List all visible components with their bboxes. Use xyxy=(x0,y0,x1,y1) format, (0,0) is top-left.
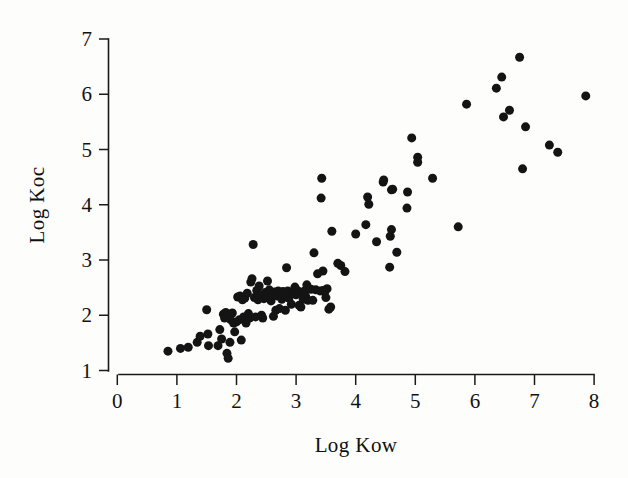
data-point xyxy=(326,302,335,311)
data-point xyxy=(392,248,401,257)
data-point xyxy=(237,336,246,345)
x-axis-ticks xyxy=(117,375,594,386)
y-tick-label-4: 4 xyxy=(82,193,93,217)
data-point xyxy=(225,338,234,347)
data-point xyxy=(321,293,330,302)
x-tick-label-3: 3 xyxy=(291,389,302,413)
x-tick-label-6: 6 xyxy=(470,389,481,413)
data-point xyxy=(402,204,411,213)
data-point xyxy=(248,274,257,283)
data-point xyxy=(553,148,562,157)
y-tick-label-5: 5 xyxy=(82,138,93,162)
data-point xyxy=(202,305,211,314)
y-tick-label-6: 6 xyxy=(82,82,93,106)
plot-canvas: 1234567 012345678 Log Koc Log Kow xyxy=(0,0,628,478)
y-tick-label-7: 7 xyxy=(82,27,93,51)
data-point xyxy=(287,300,296,309)
data-point xyxy=(351,230,360,239)
x-tick-label-1: 1 xyxy=(172,389,183,413)
data-point xyxy=(323,284,332,293)
y-axis-tick-labels: 1234567 xyxy=(82,27,93,383)
data-point xyxy=(217,335,226,344)
data-point xyxy=(263,277,272,286)
data-point xyxy=(518,164,527,173)
data-point xyxy=(407,133,416,142)
data-point xyxy=(454,222,463,231)
data-point xyxy=(505,106,514,115)
data-point xyxy=(521,122,530,131)
data-point xyxy=(361,220,370,229)
y-tick-label-1: 1 xyxy=(82,359,93,383)
data-point xyxy=(203,330,212,339)
x-tick-label-4: 4 xyxy=(350,389,361,413)
x-axis-title: Log Kow xyxy=(315,433,398,457)
data-point xyxy=(492,84,501,93)
data-point xyxy=(413,158,422,167)
data-point xyxy=(327,227,336,236)
data-point xyxy=(296,302,305,311)
y-axis-title: Log Koc xyxy=(25,167,49,244)
data-point xyxy=(204,341,213,350)
data-point xyxy=(224,354,233,363)
data-point xyxy=(403,188,412,197)
data-point xyxy=(497,73,506,82)
data-point xyxy=(282,263,291,272)
data-point xyxy=(545,141,554,150)
data-point xyxy=(388,185,397,194)
x-tick-label-8: 8 xyxy=(589,389,600,413)
x-tick-label-7: 7 xyxy=(529,389,540,413)
data-point xyxy=(581,91,590,100)
y-tick-label-3: 3 xyxy=(82,248,93,272)
x-tick-label-0: 0 xyxy=(112,389,123,413)
data-point xyxy=(309,248,318,257)
data-point xyxy=(372,237,381,246)
data-point xyxy=(230,327,239,336)
data-point xyxy=(308,296,317,305)
data-point xyxy=(428,174,437,183)
x-tick-label-2: 2 xyxy=(231,389,242,413)
axes xyxy=(109,39,595,375)
x-tick-label-5: 5 xyxy=(410,389,421,413)
data-point xyxy=(340,267,349,276)
data-point xyxy=(317,194,326,203)
data-point xyxy=(317,174,326,183)
data-point xyxy=(163,347,172,356)
scatter-plot-figure: 1234567 012345678 Log Koc Log Kow xyxy=(0,0,628,478)
data-point xyxy=(258,314,267,323)
data-point xyxy=(249,240,258,249)
data-point xyxy=(462,100,471,109)
data-points xyxy=(163,53,590,363)
data-point xyxy=(364,200,373,209)
data-point xyxy=(318,267,327,276)
data-point xyxy=(515,53,524,62)
data-point xyxy=(215,325,224,334)
data-point xyxy=(379,175,388,184)
x-axis-tick-labels: 012345678 xyxy=(112,389,599,413)
y-tick-label-2: 2 xyxy=(82,303,93,327)
data-point xyxy=(184,343,193,352)
data-point xyxy=(385,263,394,272)
data-point xyxy=(176,344,185,353)
data-point xyxy=(228,309,237,318)
data-point xyxy=(196,332,205,341)
y-axis-ticks xyxy=(99,39,109,371)
data-point xyxy=(387,225,396,234)
